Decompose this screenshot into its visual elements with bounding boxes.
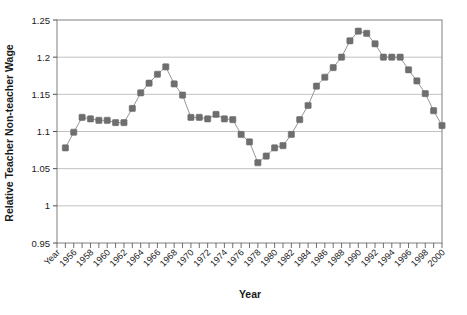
x-axis-title: Year xyxy=(239,288,261,300)
data-point-marker xyxy=(405,67,411,73)
y-tick-label: 1 xyxy=(45,200,50,211)
data-point-marker xyxy=(431,108,437,114)
data-point-marker xyxy=(439,122,445,128)
y-tick-label: 1.05 xyxy=(32,163,51,174)
data-point-marker xyxy=(347,38,353,44)
chart-background xyxy=(0,0,467,315)
data-point-marker xyxy=(121,119,127,125)
y-axis-title: Relative Teacher Non-teacher Wage xyxy=(3,44,15,222)
data-point-marker xyxy=(364,30,370,36)
y-tick-label: 1.2 xyxy=(37,52,50,63)
data-point-marker xyxy=(205,116,211,122)
data-point-marker xyxy=(338,54,344,60)
y-tick-label: 1.25 xyxy=(32,15,51,26)
data-point-marker xyxy=(179,92,185,98)
relative-wage-line-chart: 0.9511.051.11.151.21.25 Year195619581960… xyxy=(0,0,467,315)
data-point-marker xyxy=(355,28,361,34)
data-point-marker xyxy=(422,90,428,96)
data-point-marker xyxy=(87,116,93,122)
data-point-marker xyxy=(196,114,202,120)
data-point-marker xyxy=(146,80,152,86)
data-point-marker xyxy=(104,117,110,123)
data-point-marker xyxy=(322,74,328,80)
data-point-marker xyxy=(62,145,68,151)
y-tick-label: 0.95 xyxy=(32,238,51,249)
data-point-marker xyxy=(129,105,135,111)
data-point-marker xyxy=(313,83,319,89)
data-point-marker xyxy=(221,116,227,122)
data-point-marker xyxy=(255,160,261,166)
data-point-marker xyxy=(112,119,118,125)
data-point-marker xyxy=(230,117,236,123)
data-point-marker xyxy=(280,143,286,149)
y-tick-label: 1.1 xyxy=(37,126,50,137)
chart-container: 0.9511.051.11.151.21.25 Year195619581960… xyxy=(0,0,467,315)
data-point-marker xyxy=(414,78,420,84)
data-point-marker xyxy=(79,114,85,120)
data-point-marker xyxy=(238,131,244,137)
data-point-marker xyxy=(330,64,336,70)
data-point-marker xyxy=(397,54,403,60)
data-point-marker xyxy=(213,111,219,117)
data-point-marker xyxy=(246,139,252,145)
data-point-marker xyxy=(71,129,77,135)
data-point-marker xyxy=(188,114,194,120)
data-point-marker xyxy=(163,64,169,70)
y-tick-label: 1.15 xyxy=(32,89,51,100)
data-point-marker xyxy=(372,41,378,47)
data-point-marker xyxy=(263,153,269,159)
data-point-marker xyxy=(297,117,303,123)
data-point-marker xyxy=(288,131,294,137)
data-point-marker xyxy=(96,117,102,123)
data-point-marker xyxy=(305,102,311,108)
data-point-marker xyxy=(138,90,144,96)
data-point-marker xyxy=(171,81,177,87)
data-point-marker xyxy=(154,71,160,77)
data-point-marker xyxy=(272,145,278,151)
data-point-marker xyxy=(389,54,395,60)
data-point-marker xyxy=(380,54,386,60)
